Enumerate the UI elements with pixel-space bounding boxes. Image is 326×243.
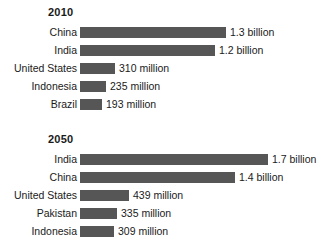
bar-value-label: 1.2 billion xyxy=(219,44,263,57)
bar-value-label: 193 million xyxy=(106,98,156,111)
bar-category-label: India xyxy=(0,44,77,57)
bar-value-label: 1.7 billion xyxy=(272,153,316,166)
population-bar-chart: 2010 China 1.3 billion India 1.2 billion… xyxy=(0,0,326,243)
bar xyxy=(80,27,226,38)
bar-category-label: India xyxy=(0,153,77,166)
bar-track: 1.3 billion xyxy=(80,27,320,38)
bar-value-label: 309 million xyxy=(118,225,168,238)
bar-category-label: United States xyxy=(0,189,77,202)
group-title-2050: 2050 xyxy=(48,133,73,146)
bar-row: Brazil 193 million xyxy=(0,96,326,114)
bar-track: 1.7 billion xyxy=(80,154,320,165)
bar-value-label: 1.4 billion xyxy=(239,171,283,184)
bar xyxy=(80,63,115,74)
bar-row: Pakistan 335 million xyxy=(0,205,326,223)
bar-category-label: Indonesia xyxy=(0,80,77,93)
bar-value-label: 235 million xyxy=(110,80,160,93)
bar-category-label: Indonesia xyxy=(0,225,77,238)
bar-row: Indonesia 309 million xyxy=(0,223,326,241)
bar xyxy=(80,172,235,183)
bar-track: 193 million xyxy=(80,99,320,110)
bar xyxy=(80,208,117,219)
bar-track: 309 million xyxy=(80,226,320,237)
bar-rows-2050: India 1.7 billion China 1.4 billion Unit… xyxy=(0,151,326,241)
group-title-2010: 2010 xyxy=(48,6,73,19)
bar-value-label: 335 million xyxy=(121,207,171,220)
bar-category-label: Pakistan xyxy=(0,207,77,220)
bar-track: 1.4 billion xyxy=(80,172,320,183)
bar-track: 1.2 billion xyxy=(80,45,320,56)
bar-rows-2010: China 1.3 billion India 1.2 billion Unit… xyxy=(0,24,326,114)
bar-value-label: 439 million xyxy=(133,189,183,202)
bar-category-label: Brazil xyxy=(0,98,77,111)
bar-row: India 1.2 billion xyxy=(0,42,326,60)
bar-value-label: 310 million xyxy=(119,62,169,75)
bar xyxy=(80,226,114,237)
bar-row: United States 439 million xyxy=(0,187,326,205)
bar-value-label: 1.3 billion xyxy=(230,26,274,39)
bar-row: China 1.4 billion xyxy=(0,169,326,187)
bar-track: 335 million xyxy=(80,208,320,219)
bar-category-label: China xyxy=(0,26,77,39)
bar-track: 439 million xyxy=(80,190,320,201)
bar-track: 235 million xyxy=(80,81,320,92)
bar xyxy=(80,45,215,56)
bar-category-label: China xyxy=(0,171,77,184)
bar-row: United States 310 million xyxy=(0,60,326,78)
bar-row: China 1.3 billion xyxy=(0,24,326,42)
bar-category-label: United States xyxy=(0,62,77,75)
bar xyxy=(80,81,106,92)
bar-row: India 1.7 billion xyxy=(0,151,326,169)
bar xyxy=(80,99,102,110)
bar-track: 310 million xyxy=(80,63,320,74)
bar xyxy=(80,154,268,165)
bar-row: Indonesia 235 million xyxy=(0,78,326,96)
bar xyxy=(80,190,129,201)
